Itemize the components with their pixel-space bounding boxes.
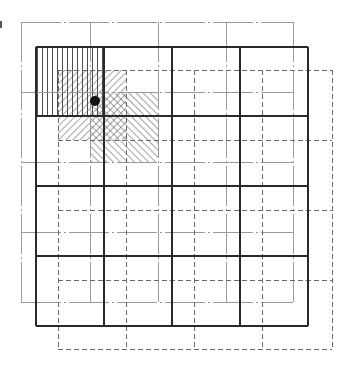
gray-cell-backward (90, 92, 158, 162)
grid-overlay-diagram (0, 0, 351, 367)
sample-point-layer (90, 96, 100, 106)
sample-point-dot (90, 96, 100, 106)
scan-artifact-mark (0, 21, 2, 28)
